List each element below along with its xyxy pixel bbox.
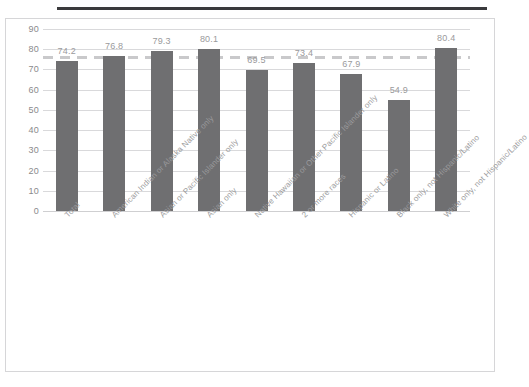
plot-area: 74.276.879.380.169.573.467.954.980.4 — [43, 29, 470, 211]
bar[interactable] — [435, 48, 457, 211]
y-axis-tick-label: 90 — [7, 25, 39, 34]
bar-value-label: 80.1 — [186, 35, 232, 44]
y-axis: 9080706050403020100 — [3, 29, 39, 211]
bar-value-label: 69.5 — [234, 56, 280, 65]
y-axis-tick-label: 20 — [7, 167, 39, 176]
bar[interactable] — [56, 61, 78, 211]
bar-value-label: 79.3 — [139, 37, 185, 46]
y-axis-tick-label: 60 — [7, 86, 39, 95]
bar[interactable] — [151, 51, 173, 211]
y-axis-tick-label: 30 — [7, 146, 39, 155]
bar-value-label: 73.4 — [281, 49, 327, 58]
bar[interactable] — [103, 56, 125, 211]
y-axis-tick-label: 40 — [7, 126, 39, 135]
bar-value-label: 80.4 — [423, 34, 469, 43]
y-axis-tick-label: 0 — [7, 207, 39, 216]
bar[interactable] — [293, 63, 315, 211]
bar-value-label: 74.2 — [44, 47, 90, 56]
bar[interactable] — [340, 74, 362, 211]
bar-value-label: 76.8 — [91, 42, 137, 51]
bar[interactable] — [388, 100, 410, 211]
y-axis-tick-label: 10 — [7, 187, 39, 196]
y-axis-tick-label: 80 — [7, 45, 39, 54]
bar[interactable] — [246, 70, 268, 211]
bar-value-label: 67.9 — [328, 60, 374, 69]
y-axis-tick-label: 70 — [7, 65, 39, 74]
y-axis-tick-label: 50 — [7, 106, 39, 115]
bar-value-label: 54.9 — [376, 86, 422, 95]
gridline — [43, 29, 470, 30]
x-axis-category-labels: TotalAmerican Indian or Alaska Native on… — [43, 213, 470, 373]
